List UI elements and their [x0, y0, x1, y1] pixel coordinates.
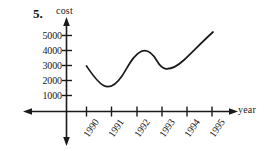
graph-figure: 5. cost year 5000 4000 3000 2000 1000 19… [0, 0, 271, 151]
year-axis-right-arrow-icon [229, 108, 238, 115]
cost-curve [87, 32, 214, 87]
cost-axis-up-arrow-icon [63, 17, 70, 26]
graph-canvas [0, 0, 271, 151]
year-axis-left-arrow-icon [23, 108, 32, 115]
cost-axis-down-arrow-icon [63, 137, 70, 146]
